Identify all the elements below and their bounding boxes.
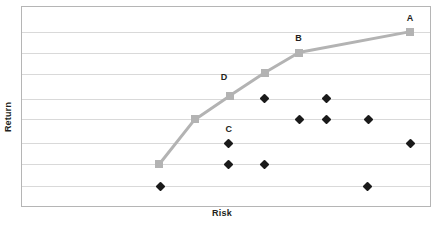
asset-point-marker[interactable] (321, 94, 331, 104)
asset-point-marker[interactable] (260, 159, 270, 169)
asset-point-marker[interactable] (224, 159, 234, 169)
asset-point-marker[interactable] (362, 181, 372, 191)
asset-point-marker[interactable] (224, 138, 234, 148)
asset-point-marker[interactable] (321, 114, 331, 124)
y-axis-title-text: Return (3, 102, 13, 132)
point-label-c: C (226, 124, 233, 134)
frontier-line-segment (158, 119, 196, 166)
gridline (22, 32, 430, 33)
x-axis-title: Risk (0, 208, 444, 218)
gridline (22, 53, 430, 54)
point-label-a: A (407, 13, 414, 23)
asset-point-marker[interactable] (155, 181, 165, 191)
frontier-point-marker[interactable] (191, 115, 199, 123)
chart-canvas: ABCD Return Risk (0, 0, 444, 225)
frontier-line-segment (298, 30, 410, 54)
frontier-point-marker[interactable] (226, 92, 234, 100)
asset-point-marker[interactable] (363, 114, 373, 124)
asset-point-marker[interactable] (405, 138, 415, 148)
frontier-point-marker[interactable] (406, 28, 414, 36)
y-axis-title: Return (0, 92, 16, 142)
asset-point-marker[interactable] (294, 114, 304, 124)
frontier-point-marker[interactable] (261, 69, 269, 77)
frontier-point-marker[interactable] (155, 160, 163, 168)
asset-point-marker[interactable] (260, 94, 270, 104)
point-label-b: B (295, 33, 302, 43)
frontier-point-marker[interactable] (295, 49, 303, 57)
plot-area: ABCD (21, 6, 431, 207)
point-label-d: D (221, 72, 228, 82)
